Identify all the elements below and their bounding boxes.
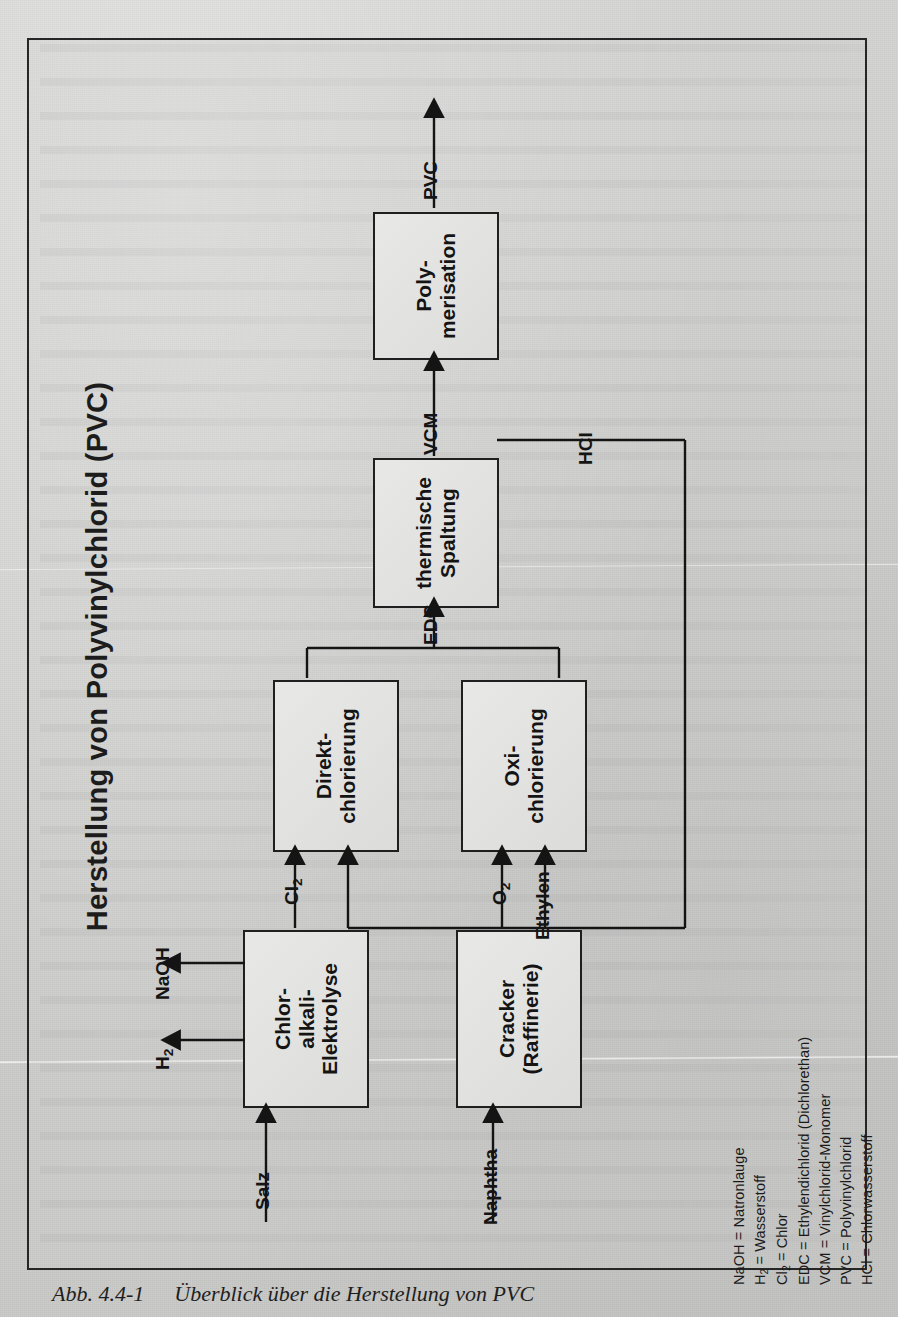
node-oxichlorierung-label: Oxi-chlorierung <box>500 708 547 824</box>
figure-title: Herstellung von Polyvinylchlorid (PVC) <box>81 277 114 1037</box>
flow-label-hcl: HCl <box>575 432 597 465</box>
node-oxichlorierung[interactable]: Oxi-chlorierung <box>461 680 587 852</box>
figure-caption: Abb. 4.4-1Überblick über die Herstellung… <box>52 1281 872 1307</box>
node-polymerisation-label: Poly-merisation <box>412 233 459 339</box>
flow-label-edc: EDC <box>420 605 442 645</box>
node-direktchlorierung[interactable]: Direkt-chlorierung <box>273 680 399 852</box>
flow-label-cl2: Cl2 <box>281 878 305 905</box>
legend-row-h2: H2 = Wasserstoff <box>750 1037 772 1285</box>
legend-row-edc: EDC = Ethylendichlorid (Dichlorethan) <box>794 1037 815 1285</box>
flow-label-vcm: VCM <box>420 413 442 455</box>
flow-label-pvc: PVC <box>420 161 442 200</box>
flow-label-o2: O2 <box>489 883 513 905</box>
legend-row-hcl: HCl = Chlorwasserstoff <box>857 1037 878 1285</box>
flow-label-salz: Salz <box>252 1172 274 1210</box>
legend-row-vcm: VCM = Vinylchlorid-Monomer <box>815 1037 836 1285</box>
node-polymerisation[interactable]: Poly-merisation <box>373 212 499 360</box>
flow-label-naoh: NaOH <box>152 947 174 1000</box>
node-chlor-alkali-elektrolyse[interactable]: Chlor-alkali-Elektrolyse <box>243 930 369 1108</box>
node-thermische-spaltung[interactable]: thermischeSpaltung <box>373 458 499 608</box>
caption-text: Überblick über die Herstellung von PVC <box>174 1281 534 1306</box>
node-direktchlorierung-label: Direkt-chlorierung <box>312 708 359 824</box>
node-thermische-spaltung-label: thermischeSpaltung <box>412 477 459 589</box>
legend-row-pvc: PVC = Polyvinylchlorid <box>836 1037 857 1285</box>
flow-label-naphtha: Naphtha <box>480 1149 502 1225</box>
node-cracker-raffinerie-label: Cracker(Raffinerie) <box>495 964 542 1075</box>
legend: NaOH = Natronlauge H2 = Wasserstoff Cl2 … <box>729 1037 878 1285</box>
figure-frame: Herstellung von Polyvinylchlorid (PVC) P… <box>27 38 867 1270</box>
legend-row-naoh: NaOH = Natronlauge <box>729 1037 750 1285</box>
flow-label-h2: H2 <box>152 1049 176 1070</box>
flow-label-ethylen: Ethylen <box>532 871 554 940</box>
caption-number: Abb. 4.4-1 <box>52 1281 144 1306</box>
node-chlor-alkali-elektrolyse-label: Chlor-alkali-Elektrolyse <box>271 963 342 1075</box>
legend-row-cl2: Cl2 = Chlor <box>772 1037 794 1285</box>
node-cracker-raffinerie[interactable]: Cracker(Raffinerie) <box>456 930 582 1108</box>
